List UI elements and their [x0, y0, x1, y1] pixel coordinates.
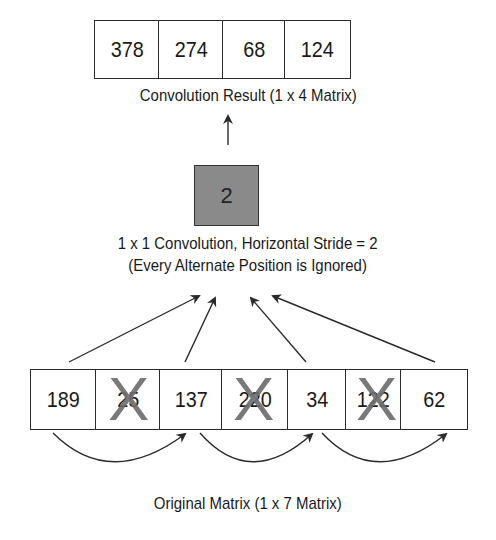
original-cell: 137 — [159, 369, 223, 430]
result-value: 124 — [301, 37, 334, 63]
stride-arrow-icon — [200, 433, 312, 462]
original-value: 34 — [306, 387, 328, 413]
original-cell-skipped: 25 — [95, 369, 161, 430]
arrow-icon — [185, 298, 215, 362]
original-value: 137 — [174, 387, 207, 413]
kernel-caption-line1: 1 x 1 Convolution, Horizontal Stride = 2 — [0, 234, 496, 254]
kernel-box: 2 — [194, 165, 259, 226]
result-value: 274 — [174, 37, 207, 63]
result-cell: 274 — [158, 20, 224, 79]
original-value: 25 — [117, 387, 139, 413]
kernel-value: 2 — [220, 183, 232, 209]
result-value: 378 — [110, 37, 143, 63]
stride-arrow-icon — [322, 433, 446, 462]
original-value: 220 — [238, 387, 271, 413]
result-caption: Convolution Result (1 x 4 Matrix) — [0, 86, 496, 106]
kernel-caption-line2: (Every Alternate Position is Ignored) — [0, 256, 496, 276]
result-cell: 68 — [222, 20, 286, 79]
original-cell: 34 — [287, 369, 347, 430]
arrow-icon — [273, 296, 435, 362]
original-cell-skipped: 220 — [221, 369, 289, 430]
arrow-icon — [251, 298, 306, 362]
result-caption-text: Convolution Result (1 x 4 Matrix) — [139, 86, 356, 106]
result-cell: 124 — [284, 20, 351, 79]
original-value: 122 — [357, 387, 390, 413]
original-cell: 62 — [400, 369, 468, 430]
stride-arrow-icon — [53, 433, 185, 462]
kernel-caption-text: (Every Alternate Position is Ignored) — [129, 256, 368, 276]
result-cell: 378 — [94, 20, 160, 79]
original-caption-text: Original Matrix (1 x 7 Matrix) — [154, 494, 342, 514]
kernel-caption-text: 1 x 1 Convolution, Horizontal Stride = 2 — [118, 234, 378, 254]
original-cell-skipped: 122 — [345, 369, 402, 430]
original-caption: Original Matrix (1 x 7 Matrix) — [0, 494, 496, 514]
original-cell: 189 — [30, 369, 97, 430]
arrow-icon — [69, 296, 199, 362]
original-value: 189 — [47, 387, 80, 413]
original-value: 62 — [423, 387, 445, 413]
result-value: 68 — [243, 37, 265, 63]
